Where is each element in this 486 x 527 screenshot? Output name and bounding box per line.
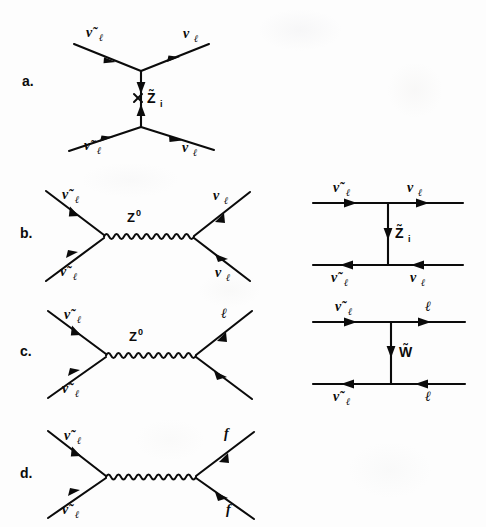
panel-b-partner-label-bottom-left-sub: ℓ: [344, 277, 348, 288]
panel-a-label-bottom-left: ν̃: [84, 138, 96, 153]
panel-b: b. ν̃ ℓ ν̃ ℓ Z 0 ν ℓ ν ℓ: [20, 187, 250, 283]
panel-c-arrow-bottom-left: [68, 368, 80, 376]
panel-b-label-bottom-left: ν̃: [60, 264, 72, 279]
panel-c-partner-arrow-prop: [387, 346, 396, 358]
panel-b-partner-label-top-right-sub: ℓ: [418, 187, 422, 198]
panel-b-partner-arrow-top-left: [344, 199, 357, 208]
panel-d-label-top-right: f: [224, 426, 230, 441]
panel-d-label-top-left: ν̃: [64, 428, 76, 443]
panel-a-leg-top-left: [74, 44, 141, 71]
panel-d-arrow-bottom-left: [68, 488, 80, 496]
panel-b-wavy-propagator: [104, 234, 194, 239]
panel-c-label-top-left-sub: ℓ: [77, 314, 81, 325]
panel-a-label-bottom-right-sub: ℓ: [193, 147, 197, 158]
panel-b-partner-arrow-bottom-left: [340, 261, 353, 270]
panel-b-arrow-bottom-right: [215, 254, 228, 262]
panel-b-partner-arrow-prop: [384, 228, 393, 240]
panel-b-label-bottom-left-sub: ℓ: [73, 271, 77, 282]
panel-b-partner-label-top-right: ν: [407, 180, 414, 195]
panel-a-propagator-label: Z̃: [147, 89, 156, 106]
panel-c-label-top-left: ν̃: [64, 307, 76, 322]
panel-c-arrow-top-left: [71, 326, 81, 336]
panel-b-partner-label-bottom-right: ν: [410, 270, 417, 285]
panel-c-leg-bottom-right: [196, 357, 252, 399]
panel-a-label-bottom-left-sub: ℓ: [97, 145, 101, 156]
panel-b-partner-label-top-left-sub: ℓ: [346, 187, 350, 198]
panel-b-partner-arrow-bottom-right: [411, 261, 424, 270]
panel-c-letter: c.: [20, 343, 32, 359]
panel-b-label-top-right: ν: [213, 188, 220, 203]
panel-b-label-top-left-sub: ℓ: [75, 194, 79, 205]
panel-c-propagator-label: Z: [129, 329, 137, 344]
panel-d-letter: d.: [20, 465, 32, 481]
panel-a-leg-bottom-right: [141, 127, 214, 150]
panel-b-letter: b.: [20, 225, 32, 241]
panel-d-label-bottom-left: ν̃: [62, 502, 74, 517]
panel-b-partner-arrow-top-right: [416, 199, 429, 208]
panel-a-arrow-prop-up: [137, 104, 146, 116]
panel-d: d. ν̃ ℓ ν̃ ℓ f f: [20, 426, 254, 520]
panel-a-label-bottom-right: ν: [182, 140, 189, 155]
panel-c-partner-label-bottom-left-sub: ℓ: [346, 396, 350, 407]
panel-c-partner-label-top-left-sub: ℓ: [348, 306, 352, 317]
panel-b-label-bottom-right: ν: [215, 265, 222, 280]
panel-c-partner-label-bottom-right: ℓ: [425, 389, 431, 404]
panel-a-arrow-prop-down: [137, 82, 146, 94]
panel-b-partner: ν̃ ℓ ν ℓ Z̃ i ν̃ ℓ ν ℓ: [313, 180, 463, 288]
panel-a-letter: a.: [22, 73, 34, 89]
panel-c-label-bottom-left-sub: ℓ: [75, 388, 79, 399]
panel-b-propagator-label: Z: [127, 210, 135, 225]
panel-b-partner-label-top-left: ν̃: [333, 180, 345, 195]
panel-c-partner-arrow-top-right: [418, 318, 431, 327]
panel-b-partner-label-bottom-left: ν̃: [331, 270, 343, 285]
panel-c: c. ν̃ ℓ ν̃ ℓ Z 0 ℓ: [20, 306, 252, 399]
panel-a-label-top-right-sub: ℓ: [194, 33, 198, 44]
panel-d-label-top-left-sub: ℓ: [77, 435, 81, 446]
panel-c-partner: ν̃ ℓ ℓ W̃ ν̃ ℓ ℓ: [313, 299, 465, 407]
panel-b-label-top-left: ν̃: [62, 187, 74, 202]
panel-b-label-bottom-right-sub: ℓ: [226, 272, 230, 283]
panel-a-label-top-left-sub: ℓ: [99, 32, 103, 43]
panel-b-arrow-bottom-left: [66, 250, 78, 258]
panel-b-leg-top-right: [194, 192, 250, 236]
panel-b-label-top-right-sub: ℓ: [224, 195, 228, 206]
panel-c-partner-propagator-label: W̃: [399, 343, 413, 360]
panel-b-partner-propagator-label-sub: i: [408, 234, 411, 244]
feynman-diagram-canvas: a. ν̃ ℓ ν ℓ Z̃ i ν̃ ℓ: [0, 0, 486, 527]
panel-c-partner-arrow-bottom-left: [341, 380, 354, 389]
panel-c-propagator-label-sup: 0: [138, 327, 143, 337]
panel-c-partner-arrow-bottom-right: [415, 380, 428, 389]
panel-b-arrow-top-left: [69, 207, 79, 217]
panel-c-label-bottom-left: ν̃: [62, 381, 74, 396]
panel-a-propagator-label-sub: i: [160, 99, 163, 109]
panel-d-label-bottom-left-sub: ℓ: [75, 509, 79, 520]
panel-d-label-bottom-right: f: [226, 502, 232, 517]
panel-b-partner-propagator-label: Z̃: [395, 224, 404, 241]
panel-a: a. ν̃ ℓ ν ℓ Z̃ i ν̃ ℓ: [22, 25, 214, 158]
figure-page: a. ν̃ ℓ ν ℓ Z̃ i ν̃ ℓ: [0, 0, 486, 527]
panel-b-propagator-label-sup: 0: [136, 208, 141, 218]
panel-c-partner-label-top-right: ℓ: [425, 299, 431, 314]
panel-c-partner-arrow-top-left: [344, 318, 357, 327]
panel-a-label-top-right: ν: [183, 26, 190, 41]
panel-d-wavy-propagator: [106, 475, 196, 480]
panel-c-label-top-right: ℓ: [221, 306, 227, 321]
panel-c-wavy-propagator: [106, 353, 196, 358]
panel-c-partner-label-bottom-left: ν̃: [333, 389, 345, 404]
panel-d-arrow-top-left: [71, 447, 81, 457]
panel-a-label-top-left: ν̃: [86, 25, 98, 40]
panel-c-partner-label-top-left: ν̃: [335, 299, 347, 314]
panel-b-partner-label-bottom-right-sub: ℓ: [421, 277, 425, 288]
